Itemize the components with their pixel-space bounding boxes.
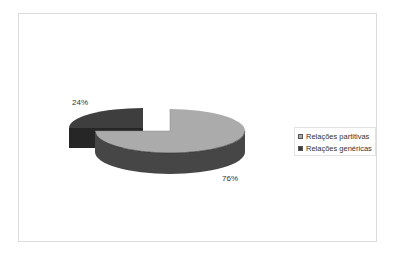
legend-label-genericas: Relações genéricas bbox=[306, 144, 372, 153]
legend-swatch-partitivas bbox=[298, 134, 303, 139]
label-genericas-pct: 24% bbox=[72, 98, 88, 107]
legend-item-genericas: Relações genéricas bbox=[298, 142, 372, 154]
legend-swatch-genericas bbox=[298, 146, 303, 151]
label-partitivas-pct: 76% bbox=[222, 174, 238, 183]
legend-item-partitivas: Relações partitivas bbox=[298, 130, 372, 142]
legend-label-partitivas: Relações partitivas bbox=[306, 132, 369, 141]
legend: Relações partitivas Relações genéricas bbox=[294, 127, 376, 156]
